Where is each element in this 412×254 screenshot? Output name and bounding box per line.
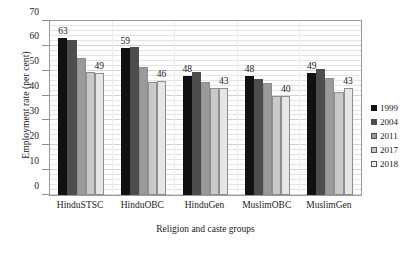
- y-axis-tick-label: 70: [30, 7, 40, 17]
- bar: [281, 96, 290, 195]
- bar-data-label: 59: [120, 36, 130, 46]
- y-axis-tick-label: 40: [30, 81, 40, 91]
- bar-data-label: 43: [219, 76, 229, 86]
- y-axis-tick-label: 10: [30, 156, 40, 166]
- bar-data-label: 48: [183, 64, 193, 74]
- y-axis-tick: [42, 20, 50, 21]
- bar-chart-figure: Employment rate (per cent) 6349594648434…: [0, 0, 412, 254]
- legend-item-label: 2018: [380, 160, 398, 169]
- y-axis-tick: [42, 169, 50, 170]
- legend-swatch-icon: [371, 105, 377, 111]
- bar-data-label: 49: [95, 61, 105, 71]
- x-axis-category-label: HinduGen: [185, 200, 225, 210]
- legend-item[interactable]: 2011: [371, 129, 398, 143]
- bar: [307, 73, 316, 195]
- bar: [95, 73, 104, 195]
- bar: [130, 47, 139, 195]
- legend-item-label: 2017: [380, 146, 398, 155]
- y-axis-tick: [42, 45, 50, 46]
- legend-item[interactable]: 2017: [371, 143, 398, 157]
- bar: [210, 88, 219, 195]
- bar: [121, 48, 130, 195]
- bar: [316, 69, 325, 195]
- bar: [86, 72, 95, 195]
- bar: [325, 78, 334, 195]
- bar: [219, 88, 228, 195]
- bar-data-label: 49: [307, 61, 317, 71]
- legend-item-label: 2011: [380, 132, 398, 141]
- y-axis-tick-label: 20: [30, 131, 40, 141]
- bar: [201, 82, 210, 195]
- legend-item[interactable]: 2004: [371, 115, 398, 129]
- bar-data-label: 46: [157, 69, 167, 79]
- y-axis-tick-label: 30: [30, 106, 40, 116]
- bar-data-label: 40: [281, 84, 291, 94]
- x-axis-category-label: HinduOBC: [121, 200, 164, 210]
- y-axis-tick: [42, 70, 50, 71]
- bar-data-label: 43: [343, 76, 353, 86]
- bar: [245, 76, 254, 195]
- y-axis-tick-label: 0: [34, 181, 39, 191]
- y-axis-tick: [42, 194, 50, 195]
- y-axis-tick: [42, 144, 50, 145]
- bar: [183, 76, 192, 195]
- x-axis-title: Religion and caste groups: [49, 224, 362, 234]
- legend-item[interactable]: 2018: [371, 157, 398, 171]
- y-axis-tick: [42, 119, 50, 120]
- bar-data-label: 48: [245, 64, 255, 74]
- bar: [263, 83, 272, 195]
- x-axis-category-label: HinduSTSC: [57, 200, 103, 210]
- x-axis-category-label: MuslimOBC: [242, 200, 291, 210]
- bar: [157, 81, 166, 195]
- bar-data-label: 63: [58, 26, 68, 36]
- bar: [192, 72, 201, 195]
- bar: [77, 58, 86, 195]
- legend-item-label: 1999: [380, 104, 398, 113]
- legend-swatch-icon: [371, 147, 377, 153]
- legend-swatch-icon: [371, 161, 377, 167]
- bar: [58, 38, 67, 195]
- legend-swatch-icon: [371, 119, 377, 125]
- legend: 19992004201120172018: [371, 101, 398, 171]
- bar: [272, 96, 281, 195]
- bar: [148, 82, 157, 195]
- bar: [334, 92, 343, 195]
- legend-item[interactable]: 1999: [371, 101, 398, 115]
- plot-area: 63495946484348404943 010203040506070: [49, 20, 362, 196]
- x-axis-category-label: MuslimGen: [306, 200, 351, 210]
- legend-item-label: 2004: [380, 118, 398, 127]
- bar: [139, 67, 148, 195]
- bar: [67, 40, 76, 195]
- bar: [344, 88, 353, 195]
- y-axis-tick: [42, 95, 50, 96]
- y-axis-tick-label: 60: [30, 31, 40, 41]
- legend-swatch-icon: [371, 133, 377, 139]
- bar-series-layer: 63495946484348404943: [50, 21, 361, 195]
- y-axis-tick-label: 50: [30, 56, 40, 66]
- bar: [254, 79, 263, 195]
